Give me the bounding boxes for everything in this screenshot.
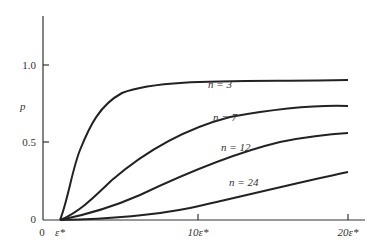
y-tick-label-0: 0 bbox=[31, 213, 37, 225]
axes bbox=[43, 16, 365, 220]
curve-n12 bbox=[60, 133, 348, 220]
curve-n7 bbox=[60, 106, 348, 220]
label-n3: n = 3 bbox=[208, 78, 232, 90]
x-tick-label-10eps: 10ε* bbox=[188, 226, 209, 238]
x-tick-label-eps: ε* bbox=[55, 226, 65, 238]
label-n24: n = 24 bbox=[229, 176, 259, 188]
y-axis-label: p bbox=[19, 100, 26, 112]
x-tick-label-0: 0 bbox=[39, 226, 45, 238]
curve-n24 bbox=[60, 172, 348, 220]
label-n12: n = 12 bbox=[221, 141, 251, 153]
curve-n3 bbox=[60, 80, 348, 220]
label-n7: n = 7 bbox=[213, 111, 237, 123]
y-tick-label-1: 1.0 bbox=[22, 59, 36, 71]
x-tick-label-20eps: 20ε* bbox=[338, 226, 359, 238]
y-tick-label-05: 0.5 bbox=[22, 136, 36, 148]
chart: 1.0 0.5 0 p 0 ε* 10ε* 20ε* n = 3 n = 7 n… bbox=[0, 0, 386, 249]
